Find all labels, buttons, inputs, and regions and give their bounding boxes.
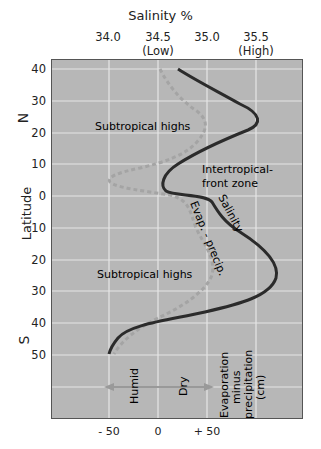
annotation-humid: Humid	[128, 368, 141, 404]
annotation-subtropical-south: Subtropical highs	[97, 268, 193, 281]
annotation-subtropical-north: Subtropical highs	[95, 120, 191, 133]
gridlines	[52, 60, 302, 418]
annotation-itcz-line2: front zone	[202, 177, 258, 190]
chart-svg: Subtropical highs Subtropical highs Inte…	[0, 0, 321, 449]
bottom-tick-0: 0	[138, 425, 178, 438]
bottom-tick-plus-50: + 50	[187, 425, 227, 438]
ep-label-line4: (cm)	[254, 375, 267, 400]
bottom-tick-minus-50: - 50	[89, 425, 129, 438]
annotation-itcz-line1: Intertropical-	[202, 163, 273, 176]
humid-dry-arrow	[104, 383, 214, 391]
annotation-dry: Dry	[177, 376, 190, 396]
